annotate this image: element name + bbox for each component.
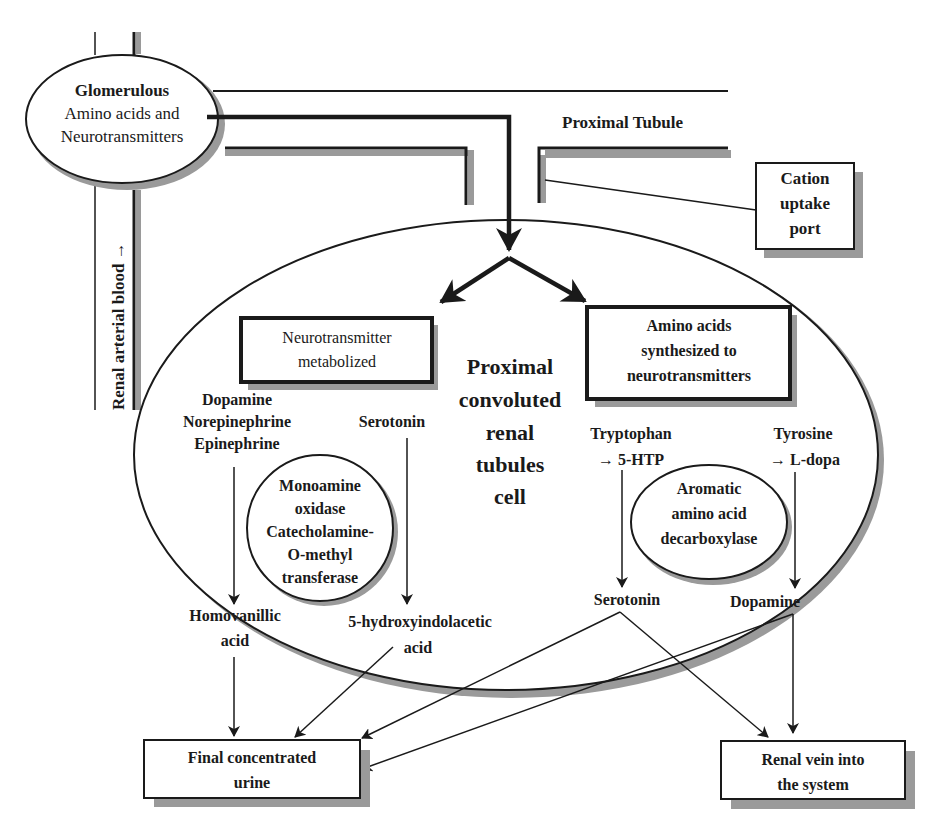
hva-line1: Homovanillic (189, 607, 281, 624)
mao-line5: transferase (282, 569, 358, 586)
synthesized-line3: neurotransmitters (627, 367, 751, 384)
dopamine-output: Dopamine (730, 593, 800, 611)
renal-vein-line1: Renal vein into (761, 751, 864, 768)
box-amino-acids-synthesized: Amino acids synthesized to neurotransmit… (587, 307, 797, 407)
cell-label-line4: tubules (476, 452, 545, 477)
hiaa-line2: acid (404, 639, 433, 656)
catecholamine-dopamine: Dopamine (202, 391, 272, 409)
aadc-line2: amino acid (671, 505, 746, 522)
hva-line2: acid (221, 632, 250, 649)
tyrosine-line1: Tyrosine (774, 425, 833, 443)
urine-line2: urine (234, 774, 270, 791)
mao-line4: O-methyl (288, 546, 353, 564)
mao-line1: Monoamine (279, 477, 361, 494)
box-final-concentrated-urine: Final concentrated urine (144, 740, 370, 807)
cation-line3: port (789, 219, 821, 238)
glomerulus: Glomerulous Amino acids and Neurotransmi… (26, 55, 225, 190)
cell-label-line3: renal (486, 420, 534, 445)
glomerulus-line2: Neurotransmitters (61, 127, 184, 146)
renal-vein-line2: the system (777, 776, 849, 794)
cell-label-line2: convoluted (459, 387, 562, 412)
mao-line3: Catecholamine- (266, 523, 374, 540)
cell-label-line1: Proximal (467, 354, 553, 379)
cation-line1: Cation (780, 169, 830, 188)
cation-line2: uptake (780, 194, 831, 213)
glomerulus-line1: Amino acids and (64, 104, 180, 123)
catecholamine-norepinephrine: Norepinephrine (183, 413, 291, 431)
tryptophan-line2: → 5-HTP (598, 451, 664, 468)
metabolized-line2: metabolized (298, 353, 376, 370)
catecholamine-epinephrine: Epinephrine (194, 435, 279, 453)
box-renal-vein: Renal vein into the system (721, 741, 915, 809)
synthesized-line2: synthesized to (641, 342, 737, 360)
serotonin-input: Serotonin (359, 413, 425, 430)
aadc-line3: decarboxylase (661, 530, 758, 548)
metabolized-line1: Neurotransmitter (282, 329, 392, 346)
renal-arterial-blood-label: Renal arterial blood → (109, 242, 128, 410)
box-neurotransmitter-metabolized: Neurotransmitter metabolized (241, 318, 438, 390)
cell-label-line5: cell (494, 484, 526, 509)
urine-line1: Final concentrated (188, 749, 317, 766)
proximal-tubule: Proximal Tubule (213, 91, 731, 205)
serotonin-output: Serotonin (594, 591, 660, 608)
tryptophan-line1: Tryptophan (590, 425, 672, 443)
tyrosine-line2: → L-dopa (770, 451, 840, 469)
hiaa-line1: 5-hydroxyindolacetic (348, 613, 492, 631)
proximal-tubule-label: Proximal Tubule (562, 113, 684, 132)
synthesized-line1: Amino acids (647, 317, 732, 334)
mao-line2: oxidase (295, 500, 346, 517)
kidney-neurotransmitter-diagram: Renal arterial blood → Proximal Tubule G… (0, 0, 933, 835)
glomerulus-title: Glomerulous (75, 81, 170, 100)
aadc-line1: Aromatic (677, 480, 742, 497)
